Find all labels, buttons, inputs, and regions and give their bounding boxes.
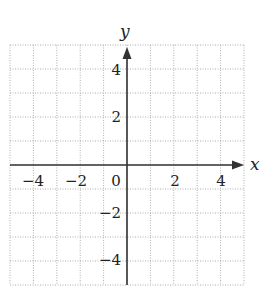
x-axis-arrow-icon xyxy=(232,161,244,170)
x-tick-label: −4 xyxy=(22,172,44,190)
x-tick-label: 0 xyxy=(111,172,121,190)
y-axis-arrow-icon xyxy=(123,47,132,59)
y-tick-label: 4 xyxy=(111,61,121,79)
y-tick-label: −2 xyxy=(99,204,121,222)
y-tick-label: 2 xyxy=(111,108,121,126)
x-axis-label: x xyxy=(250,154,260,174)
x-tick-label: 2 xyxy=(170,172,180,190)
x-tick-label: −2 xyxy=(65,172,87,190)
y-axis-label: y xyxy=(119,21,130,41)
y-tick-label: −4 xyxy=(99,251,121,269)
x-tick-label: 4 xyxy=(216,172,226,190)
coordinate-grid: x y −4 −2 0 2 4 4 2 −2 −4 xyxy=(0,0,278,292)
